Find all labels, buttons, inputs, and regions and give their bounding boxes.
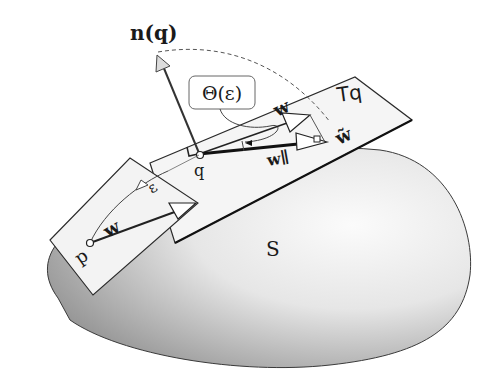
normal-label: n(q) <box>130 21 177 45</box>
point-p <box>87 240 94 247</box>
normal-arrowhead-icon <box>156 55 170 72</box>
tangent-plane-label: Tq <box>334 80 363 107</box>
point-q-label: q <box>194 161 204 180</box>
vector-wpar-label: w∥ <box>264 147 290 170</box>
surface-label: S <box>266 237 280 261</box>
point-q <box>197 152 204 159</box>
right-angle-marker-wtilde <box>314 136 320 142</box>
parallel-transport-diagram: Θ(ε) n(q) Tq S q p w ε w w∥ w̃ <box>0 0 484 377</box>
theta-label: Θ(ε) <box>202 82 242 104</box>
